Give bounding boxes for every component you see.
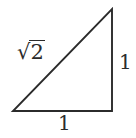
right-triangle-figure: √2 1 1 xyxy=(0,0,136,138)
hypotenuse-label: √2 xyxy=(16,40,45,63)
radicand-value: 2 xyxy=(29,40,44,63)
vertical-leg-label: 1 xyxy=(119,52,132,72)
radical-sign-icon: √2 xyxy=(16,40,45,63)
horizontal-leg-label: 1 xyxy=(58,113,71,133)
